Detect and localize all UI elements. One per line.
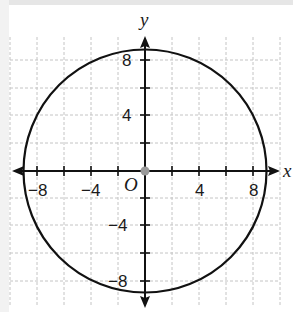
y-axis-label: y <box>138 9 149 30</box>
y-tick-label-neg8: −8 <box>108 272 127 291</box>
x-tick-label-8: 8 <box>249 181 258 200</box>
origin-label: O <box>124 174 138 195</box>
y-tick-label-neg4: −4 <box>108 216 127 235</box>
y-tick-label-8: 8 <box>122 51 131 70</box>
x-tick-label-neg8: −8 <box>28 181 47 200</box>
origin-point <box>141 167 150 176</box>
x-axis-label: x <box>282 160 292 181</box>
x-tick-label-4: 4 <box>195 181 204 200</box>
x-tick-label-neg4: −4 <box>81 181 100 200</box>
y-tick-label-4: 4 <box>122 106 131 125</box>
coordinate-plane: y x O −8 −4 4 8 8 4 −4 −8 <box>0 0 293 312</box>
